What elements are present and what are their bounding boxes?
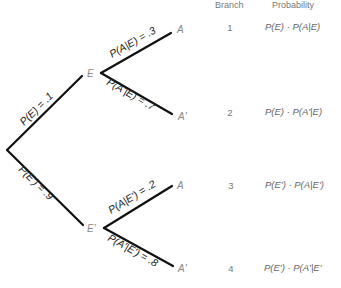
probability-2: P(E) · P(A'|E) bbox=[265, 106, 322, 117]
probability-1: P(E) · P(A|E) bbox=[265, 21, 320, 32]
edge-root-E bbox=[7, 76, 82, 150]
label-root-E-prime: P(E') = .9 bbox=[17, 163, 57, 202]
probability-tree: P(E) = .1 P(E') = .9 P(A|E) = .3 P(A'|E)… bbox=[0, 0, 341, 288]
node-E-prime: E' bbox=[87, 223, 97, 234]
node-E: E bbox=[87, 68, 94, 79]
label-Ep-A-prime: P(A'|E') = .8 bbox=[106, 231, 160, 269]
branch-number-4: 4 bbox=[221, 263, 241, 274]
node-A-2: A bbox=[176, 180, 184, 191]
branch-number-3: 3 bbox=[221, 180, 241, 191]
probability-4: P(E') · P(A'|E' bbox=[264, 262, 322, 273]
node-A-prime-1: A' bbox=[177, 111, 188, 122]
branch-number-1: 1 bbox=[220, 22, 240, 33]
header-probability: Probability bbox=[272, 0, 314, 10]
node-A-1: A bbox=[176, 24, 184, 35]
branch-number-2: 2 bbox=[220, 107, 240, 118]
probability-3: P(E') · P(A|E') bbox=[265, 179, 324, 190]
node-A-prime-2: A' bbox=[177, 263, 188, 274]
header-branch: Branch bbox=[215, 0, 244, 10]
label-E-A-prime: P(A'|E) = .7 bbox=[105, 75, 158, 113]
